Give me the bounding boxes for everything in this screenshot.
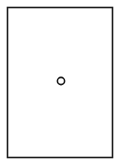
- diagram-canvas: [0, 0, 121, 166]
- diagram-svg: [0, 0, 121, 166]
- frame-rectangle: [8, 8, 113, 158]
- center-circle-icon: [57, 77, 64, 84]
